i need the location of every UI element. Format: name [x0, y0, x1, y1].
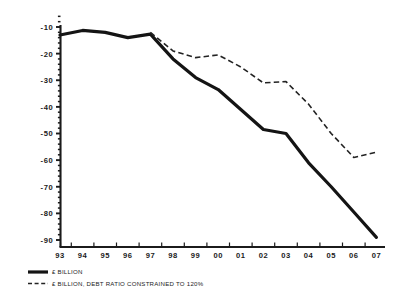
y-tick-label: -70 — [40, 183, 53, 192]
y-tick-label: -40 — [40, 103, 53, 112]
legend-label-1: £ BILLION — [52, 268, 83, 275]
x-tick-label: 94 — [78, 251, 88, 260]
y-tick-label: -60 — [40, 156, 53, 165]
x-tick-label: 98 — [168, 251, 177, 260]
y-tick-label: -20 — [40, 50, 53, 59]
y-tick-label: -80 — [40, 209, 53, 218]
y-tick-label: -90 — [40, 236, 53, 245]
x-tick-label: 04 — [304, 251, 314, 260]
x-tick-label: 97 — [146, 251, 155, 260]
x-tick-label: 05 — [326, 251, 336, 260]
y-tick-label: -10 — [40, 23, 53, 32]
y-tick-label: -50 — [40, 129, 53, 138]
x-tick-label: 00 — [213, 251, 222, 260]
x-tick-label: 93 — [55, 251, 64, 260]
x-tick-label: 01 — [236, 251, 246, 260]
legend-label-2: £ BILLION, DEBT RATIO CONSTRAINED TO 120… — [52, 280, 204, 287]
x-axis: 939495969798990001020304050607 — [55, 243, 385, 260]
x-tick-label: 99 — [191, 251, 200, 260]
x-tick-label: 96 — [123, 251, 132, 260]
x-tick-label: 02 — [259, 251, 268, 260]
y-tick-label: -30 — [40, 76, 53, 85]
chart-legend: £ BILLION£ BILLION, DEBT RATIO CONSTRAIN… — [28, 268, 204, 287]
y-axis: -10-20-30-40-50-60-70-80-90 — [40, 16, 60, 247]
x-tick-label: 06 — [349, 251, 358, 260]
series-layer — [60, 30, 376, 237]
x-tick-label: 07 — [372, 251, 381, 260]
line-chart: -10-20-30-40-50-60-70-80-90 939495969798… — [0, 0, 400, 297]
x-tick-label: 95 — [100, 251, 110, 260]
chart-canvas: -10-20-30-40-50-60-70-80-90 939495969798… — [0, 0, 400, 297]
x-tick-label: 03 — [281, 251, 290, 260]
series-line-2 — [150, 32, 376, 157]
series-line-1 — [60, 30, 376, 237]
